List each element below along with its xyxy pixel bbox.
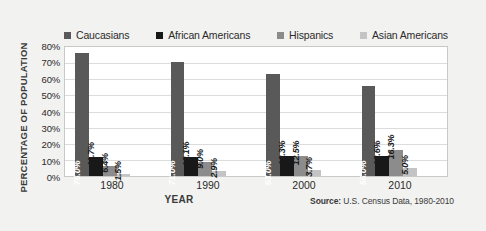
bar-group-2000: 63.0%12.3%12.5%3.7%	[256, 47, 352, 176]
bar[interactable]: 3.7%	[308, 170, 322, 176]
x-axis-tick-label: 1990	[196, 179, 219, 191]
y-axis-tick-label: 50%	[42, 90, 60, 101]
x-axis-tick-label: 2000	[292, 179, 315, 191]
chart-legend: CaucasiansAfrican AmericansHispanicsAsia…	[64, 27, 452, 43]
legend-item-hispanics[interactable]: Hispanics	[277, 30, 333, 41]
bar-group-2010: 56.0%12.6%16.3%5.0%	[352, 47, 448, 176]
y-axis-tick-label: 80%	[42, 41, 60, 52]
legend-label: African Americans	[168, 30, 250, 41]
bar-value-label: 12.6%	[373, 140, 382, 165]
y-axis-tick-label: 30%	[42, 122, 60, 133]
legend-item-asian-americans[interactable]: Asian Americans	[360, 30, 448, 41]
bar-chart: CaucasiansAfrican AmericansHispanicsAsia…	[0, 0, 486, 231]
y-axis-tick-label: 40%	[42, 106, 60, 117]
source-text: U.S. Census Data, 1980-2010	[341, 196, 454, 206]
legend-label: Hispanics	[289, 30, 333, 41]
bars-container: 76.0%11.7%6.4%1.5%71.0%12.1%9.0%2.9%63.0…	[65, 47, 447, 176]
bar[interactable]: 1.5%	[117, 174, 131, 176]
y-axis-tick-labels: 0%10%20%30%40%50%60%70%80%	[30, 46, 60, 177]
plot-area: 76.0%11.7%6.4%1.5%71.0%12.1%9.0%2.9%63.0…	[64, 46, 448, 177]
legend-swatch-icon	[156, 32, 163, 39]
bar-group-1980: 76.0%11.7%6.4%1.5%	[65, 47, 161, 176]
bar-value-label: 12.1%	[182, 141, 191, 166]
legend-label: Caucasians	[76, 30, 129, 41]
bar-value-label: 3.7%	[305, 157, 314, 177]
bar-value-label: 12.3%	[278, 141, 287, 166]
x-axis-tick-labels: 1980199020002010	[64, 179, 448, 193]
y-axis-tick-label: 70%	[42, 57, 60, 68]
x-axis-title: YEAR	[64, 194, 294, 205]
legend-swatch-icon	[360, 32, 367, 39]
y-axis-tick-label: 20%	[42, 139, 60, 150]
y-axis-tick-label: 10%	[42, 155, 60, 166]
legend-item-african-americans[interactable]: African Americans	[156, 30, 250, 41]
bar-value-label: 6.4%	[101, 153, 110, 173]
source-label: Source:	[310, 196, 341, 206]
bar-value-label: 12.5%	[292, 141, 301, 166]
bar[interactable]: 2.9%	[212, 171, 226, 176]
y-axis-tick-label: 60%	[42, 73, 60, 84]
legend-swatch-icon	[277, 32, 284, 39]
source-note: Source: U.S. Census Data, 1980-2010	[310, 196, 454, 206]
bar[interactable]: 5.0%	[403, 168, 417, 176]
x-axis-tick-label: 2010	[388, 179, 411, 191]
bar-value-label: 1.5%	[114, 161, 123, 181]
bar-value-label: 5.0%	[401, 155, 410, 175]
bar-value-label: 2.9%	[210, 158, 219, 178]
x-axis-tick-label: 1980	[100, 179, 123, 191]
legend-label: Asian Americans	[372, 30, 448, 41]
bar-value-label: 16.3%	[387, 134, 396, 159]
bar-value-label: 9.0%	[196, 149, 205, 169]
bar-group-1990: 71.0%12.1%9.0%2.9%	[161, 47, 257, 176]
legend-item-caucasians[interactable]: Caucasians	[64, 30, 129, 41]
legend-swatch-icon	[64, 32, 71, 39]
y-axis-title: PERCENTAGE OF POPULATION	[18, 33, 29, 203]
bar-value-label: 11.7%	[87, 142, 96, 166]
y-axis-tick-label: 0%	[47, 172, 60, 183]
